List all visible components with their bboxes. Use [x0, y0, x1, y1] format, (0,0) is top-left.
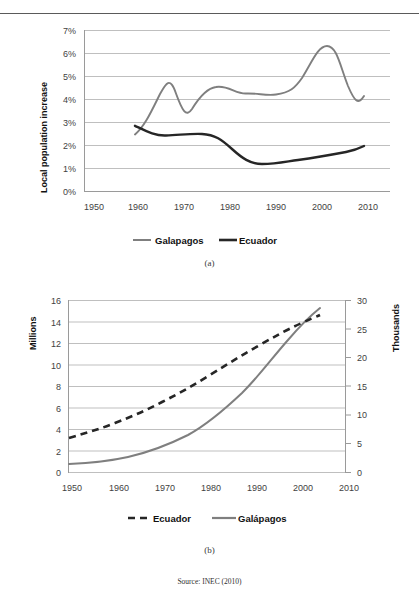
- xtick-1980: 1980: [220, 202, 240, 212]
- ytick-r-10: 10: [357, 410, 367, 420]
- chart-a-gridlines: [84, 31, 390, 192]
- caption-b: (b): [0, 545, 419, 555]
- xtick-2000: 2000: [293, 483, 313, 493]
- ytick-l-4: 4: [56, 425, 61, 435]
- chart-b-xtick-labels: 1950 1960 1970 1980 1990 2000 2010: [62, 483, 359, 493]
- xtick-2000: 2000: [312, 202, 332, 212]
- ytick-4: 4%: [63, 95, 76, 105]
- chart-a-legend: Galapagos Ecuador: [133, 235, 277, 246]
- xtick-1980: 1980: [201, 483, 221, 493]
- caption-a: (a): [0, 258, 419, 268]
- chart-b-ylabel-right: Thousands: [391, 304, 401, 352]
- figure-page: Local population increase 7% 6% 5% 4% 3%…: [0, 0, 419, 600]
- ytick-r-30: 30: [357, 296, 367, 306]
- ytick-0: 0%: [63, 187, 76, 197]
- ytick-l-12: 12: [51, 339, 61, 349]
- ytick-l-6: 6: [56, 404, 61, 414]
- xtick-1960: 1960: [128, 202, 148, 212]
- ytick-l-2: 2: [56, 447, 61, 457]
- xtick-1950: 1950: [62, 483, 82, 493]
- chart-a-ylabel: Local population increase: [39, 82, 49, 193]
- ytick-5: 5%: [63, 72, 76, 82]
- ytick-l-0: 0: [56, 468, 61, 478]
- ytick-6: 6%: [63, 49, 76, 59]
- chart-a-svg: Local population increase 7% 6% 5% 4% 3%…: [0, 18, 419, 258]
- legend-label-ecuador: Ecuador: [239, 235, 277, 246]
- ytick-l-14: 14: [51, 318, 61, 328]
- ytick-r-0: 0: [357, 468, 362, 478]
- xtick-2010: 2010: [358, 202, 378, 212]
- legend-label-galapagos: Galápagos: [238, 513, 287, 524]
- source-note: Source: INEC (2010): [0, 577, 419, 586]
- chart-a-ytick-labels: 7% 6% 5% 4% 3% 2% 1% 0%: [63, 26, 76, 197]
- ytick-l-10: 10: [51, 361, 61, 371]
- ytick-r-15: 15: [357, 382, 367, 392]
- ytick-7: 7%: [63, 26, 76, 36]
- xtick-1990: 1990: [266, 202, 286, 212]
- chart-b-ytick-labels-right: 30 25 20 15 10 5 0: [357, 296, 367, 478]
- xtick-1970: 1970: [155, 483, 175, 493]
- legend-label-galapagos: Galapagos: [155, 235, 204, 246]
- xtick-1970: 1970: [174, 202, 194, 212]
- top-divider-rule: [0, 13, 419, 14]
- chart-b-ytick-labels-left: 16 14 12 10 8 6 4 2 0: [51, 296, 61, 478]
- ytick-l-16: 16: [51, 296, 61, 306]
- chart-b-gridlines: [68, 301, 345, 473]
- ytick-l-8: 8: [56, 382, 61, 392]
- xtick-2010: 2010: [339, 483, 359, 493]
- chart-a-container: Local population increase 7% 6% 5% 4% 3%…: [0, 18, 419, 258]
- ytick-r-25: 25: [357, 325, 367, 335]
- chart-b-ylabel-left: Millions: [28, 317, 38, 351]
- chart-b-legend: Ecuador Galápagos: [128, 513, 287, 524]
- chart-a-xtick-labels: 1950 1960 1970 1980 1990 2000 2010: [84, 202, 378, 212]
- chart-b-container: Millions Thousands 16 14 12 10 8 6 4 2 0…: [0, 290, 419, 540]
- xtick-1950: 1950: [84, 202, 104, 212]
- legend-label-ecuador: Ecuador: [153, 513, 191, 524]
- chart-a-series-ecuador: [135, 126, 364, 164]
- ytick-2: 2%: [63, 141, 76, 151]
- ytick-r-20: 20: [357, 353, 367, 363]
- xtick-1960: 1960: [109, 483, 129, 493]
- chart-b-series-ecuador: [69, 315, 320, 438]
- xtick-1990: 1990: [247, 483, 267, 493]
- ytick-r-5: 5: [357, 439, 362, 449]
- ytick-1: 1%: [63, 164, 76, 174]
- ytick-3: 3%: [63, 118, 76, 128]
- chart-a-series-galapagos: [135, 46, 364, 135]
- chart-b-svg: Millions Thousands 16 14 12 10 8 6 4 2 0…: [0, 290, 419, 540]
